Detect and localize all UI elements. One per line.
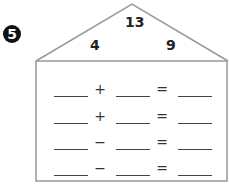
equals-sign: = (156, 108, 168, 124)
roof-right-part: 9 (166, 37, 176, 53)
minus-sign: − (94, 160, 106, 176)
equation-row-3: − = (54, 138, 214, 152)
answer-blank[interactable] (178, 175, 212, 176)
answer-blank[interactable] (116, 123, 150, 124)
equation-row-4: − = (54, 164, 214, 178)
equation-row-1: + = (54, 85, 214, 99)
answer-blank[interactable] (116, 175, 150, 176)
answer-blank[interactable] (178, 96, 212, 97)
answer-blank[interactable] (178, 123, 212, 124)
equals-sign: = (156, 160, 168, 176)
roof-outline (36, 4, 228, 61)
answer-blank[interactable] (54, 123, 88, 124)
minus-sign: − (94, 134, 106, 150)
equals-sign: = (156, 81, 168, 97)
roof-left-part: 4 (90, 37, 100, 53)
plus-sign: + (94, 81, 106, 97)
answer-blank[interactable] (178, 149, 212, 150)
equation-row-2: + = (54, 112, 214, 126)
equals-sign: = (156, 134, 168, 150)
answer-blank[interactable] (54, 175, 88, 176)
answer-blank[interactable] (54, 149, 88, 150)
answer-blank[interactable] (116, 149, 150, 150)
answer-blank[interactable] (54, 96, 88, 97)
plus-sign: + (94, 108, 106, 124)
answer-blank[interactable] (116, 96, 150, 97)
roof-total: 13 (125, 14, 144, 30)
